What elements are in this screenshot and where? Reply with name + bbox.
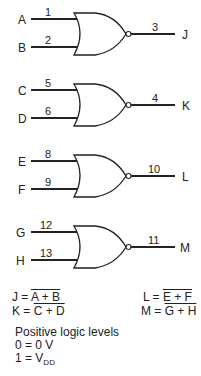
- pin-label-3: 3: [152, 21, 158, 33]
- equation-j: J = A + B: [12, 290, 60, 304]
- output-label-m: M: [180, 241, 190, 255]
- input-label-c: C: [18, 84, 27, 98]
- pin-label-13: 13: [40, 247, 52, 259]
- output-label-j: J: [182, 28, 188, 42]
- logic-level-notes: Positive logic levels 0 = 0 V 1 = VDD: [15, 326, 119, 369]
- logic-one: 1 = VDD: [15, 352, 119, 369]
- input-label-a: A: [18, 13, 26, 27]
- pin-label-4: 4: [152, 92, 158, 104]
- pin-label-11: 11: [148, 234, 159, 246]
- pin-label-5: 5: [45, 77, 51, 89]
- output-label-k: K: [182, 99, 190, 113]
- pin-label-8: 8: [45, 148, 51, 160]
- nor-gate-diagram: A 1 B 2 3 J C 5 D 6 4 K E 8 F 9 10 L G 1…: [0, 0, 201, 376]
- input-label-h: H: [16, 254, 25, 268]
- input-label-b: B: [18, 41, 26, 55]
- input-label-d: D: [18, 112, 27, 126]
- pin-label-1: 1: [45, 6, 51, 18]
- pin-label-6: 6: [45, 105, 51, 117]
- pin-label-9: 9: [45, 176, 51, 188]
- input-label-g: G: [16, 226, 25, 240]
- pin-label-12: 12: [40, 219, 52, 231]
- pin-label-2: 2: [45, 34, 51, 46]
- output-label-l: L: [182, 170, 189, 184]
- equation-m: M = G + H: [141, 304, 196, 318]
- input-label-e: E: [18, 155, 26, 169]
- nor-gate-4: G 12 H 13 11 M: [16, 219, 190, 268]
- equation-k: K = C + D: [12, 304, 65, 318]
- input-label-f: F: [18, 183, 25, 197]
- pin-label-10: 10: [148, 163, 160, 175]
- nor-gate-2: C 5 D 6 4 K: [18, 77, 190, 126]
- nor-gate-3: E 8 F 9 10 L: [18, 148, 189, 197]
- nor-gate-1: A 1 B 2 3 J: [18, 6, 188, 55]
- equation-l: L = E + F: [143, 290, 192, 304]
